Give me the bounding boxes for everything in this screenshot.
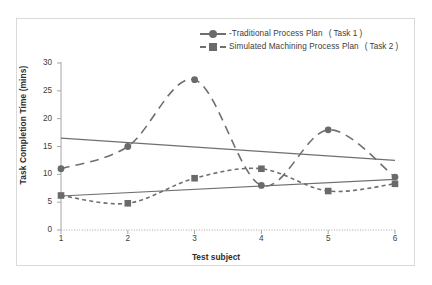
trendline-1 (61, 138, 395, 160)
y-tick-label-25: 25 (28, 86, 52, 95)
chart-figure: -Traditional Process Plan ( Task 1 ) Sim… (0, 0, 432, 285)
legend-task2-tag: ( Task 2 ) (365, 42, 399, 51)
data-point-s2-x5[interactable] (325, 188, 332, 195)
y-tick-label-15: 15 (28, 142, 52, 151)
x-tick-label-4: 4 (251, 234, 271, 243)
legend-square-marker-icon (209, 43, 217, 51)
data-point-s1-x2[interactable] (124, 143, 131, 150)
data-point-s1-x4[interactable] (258, 182, 265, 189)
data-point-s1-x6[interactable] (392, 174, 399, 181)
legend-task1-tag: ( Task 1 ) (329, 29, 363, 38)
y-axis-label: Task Completion Time (mins) (18, 40, 28, 210)
chart-legend: -Traditional Process Plan ( Task 1 ) Sim… (200, 27, 415, 55)
data-point-s2-x1[interactable] (58, 192, 65, 199)
legend-item-task1: -Traditional Process Plan ( Task 1 ) (200, 27, 415, 40)
legend-swatch-circle-line (200, 28, 226, 40)
data-point-s2-x4[interactable] (258, 165, 265, 172)
y-tick-label-0: 0 (28, 225, 52, 234)
x-tick-label-5: 5 (318, 234, 338, 243)
data-point-s1-x1[interactable] (58, 165, 65, 172)
legend-label-task1: -Traditional Process Plan (229, 29, 323, 38)
legend-label-task1-text: Traditional Process Plan (232, 29, 323, 38)
x-tick-label-3: 3 (185, 234, 205, 243)
series-line-2 (61, 168, 395, 204)
y-tick-label-5: 5 (28, 197, 52, 206)
data-point-s1-x5[interactable] (325, 126, 332, 133)
legend-label-task2: Simulated Machining Process Plan (229, 42, 359, 51)
y-tick-label-30: 30 (28, 58, 52, 67)
x-axis-label: Test subject (0, 252, 432, 262)
data-point-s1-x3[interactable] (191, 76, 198, 83)
x-tick-label-6: 6 (385, 234, 405, 243)
data-point-s2-x2[interactable] (125, 200, 132, 207)
legend-swatch-square-dashed (200, 41, 226, 53)
legend-circle-marker-icon (209, 30, 217, 38)
x-tick-label-1: 1 (51, 234, 71, 243)
data-point-s2-x3[interactable] (191, 175, 198, 182)
y-tick-label-20: 20 (28, 114, 52, 123)
legend-item-task2: Simulated Machining Process Plan ( Task … (200, 40, 415, 53)
data-point-s2-x6[interactable] (392, 180, 399, 187)
x-tick-label-2: 2 (118, 234, 138, 243)
trendline-2 (61, 179, 395, 196)
y-tick-label-10: 10 (28, 169, 52, 178)
